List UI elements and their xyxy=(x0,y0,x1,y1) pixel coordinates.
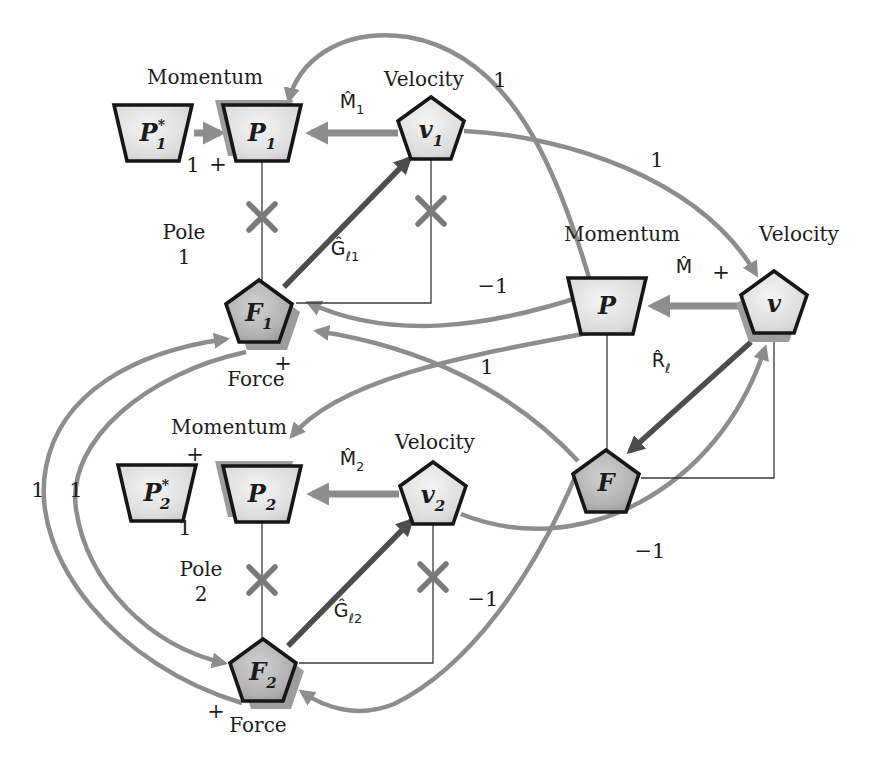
label-gain-14: + xyxy=(207,699,225,723)
node-v-label: v xyxy=(767,289,782,318)
label-gain-10: 1 xyxy=(178,516,191,540)
label-gain-13: + xyxy=(274,351,292,375)
curve-p-to-p2 xyxy=(292,333,588,436)
label-operator-2: M̂2 xyxy=(340,447,365,474)
curve-v1-to-v xyxy=(464,131,756,274)
label-operator-0: M̂1 xyxy=(340,90,365,117)
label-gain-4: + xyxy=(712,260,730,284)
label-word-8: Pole xyxy=(180,557,223,581)
label-word-3: Velocity xyxy=(758,222,840,246)
signal-flow-diagram: P*1P1v1F1PvFP*2P2v2F2 MomentumVelocityMo… xyxy=(0,0,874,774)
label-gain-9: + xyxy=(186,442,204,466)
label-operator-3: Ĝℓ1 xyxy=(331,236,359,264)
label-word-0: Momentum xyxy=(147,65,263,89)
label-gain-7: 1 xyxy=(31,478,44,502)
line-v1-to-f1 xyxy=(296,159,431,303)
arrow-v-to-f xyxy=(630,342,751,451)
node-p-label: P xyxy=(597,291,617,320)
label-word-7: 1 xyxy=(178,245,191,269)
label-gain-8: 1 xyxy=(69,478,82,502)
arrow-f1-to-v1 xyxy=(284,159,409,287)
figure-canvas: P*1P1v1F1PvFP*2P2v2F2 MomentumVelocityMo… xyxy=(0,0,874,774)
label-gain-2: 1 xyxy=(493,68,506,92)
label-gain-6: 1 xyxy=(480,355,493,379)
label-gain-11: −1 xyxy=(635,539,666,563)
label-operator-4: Ĝℓ2 xyxy=(334,598,362,626)
label-word-2: Momentum xyxy=(564,222,680,246)
label-word-1: Velocity xyxy=(383,67,465,91)
line-v2-to-f2 xyxy=(299,524,433,663)
curve-p-to-f1 xyxy=(309,296,583,326)
label-operator-1: M̂ xyxy=(676,255,692,277)
label-word-5: Velocity xyxy=(394,430,476,454)
label-word-9: 2 xyxy=(195,582,208,606)
label-gain-12: −1 xyxy=(468,587,499,611)
label-word-6: Pole xyxy=(163,220,206,244)
label-operator-5: R̂ℓ xyxy=(652,349,671,376)
label-word-11: Force xyxy=(229,713,286,737)
label-gain-5: −1 xyxy=(478,274,509,298)
label-gain-0: 1 xyxy=(186,153,199,177)
label-gain-1: + xyxy=(209,152,227,176)
arrow-f2-to-v2 xyxy=(288,521,411,646)
label-gain-3: 1 xyxy=(650,148,663,172)
label-word-4: Momentum xyxy=(171,415,287,439)
node-f-label: F xyxy=(596,468,616,497)
